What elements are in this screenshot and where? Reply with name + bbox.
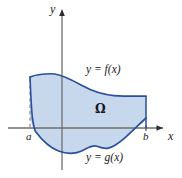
x-axis-label: x — [168, 130, 173, 142]
figure-container: y x a b y = f(x) y = g(x) Ω — [0, 0, 182, 178]
upper-curve-label: y = f(x) — [86, 64, 121, 76]
lower-curve-label: y = g(x) — [86, 152, 123, 164]
y-axis-label: y — [50, 3, 55, 15]
region-omega-fill — [30, 74, 146, 153]
right-bound-label: b — [143, 131, 149, 142]
region-label-omega: Ω — [95, 103, 106, 115]
left-bound-label: a — [26, 131, 32, 142]
